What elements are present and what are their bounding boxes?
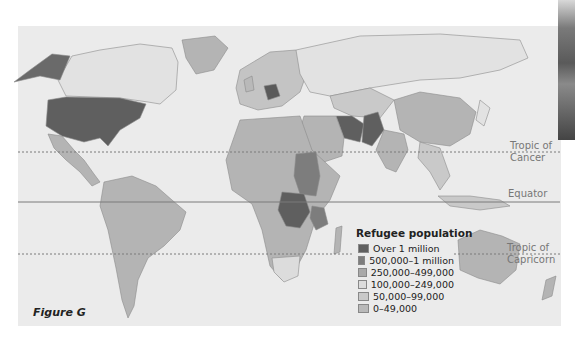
legend-label: Over 1 million (373, 243, 440, 254)
legend: Refugee population Over 1 million 500,00… (352, 226, 454, 320)
tropic-of-cancer-label-line2: Cancer (510, 152, 552, 164)
region-japan (476, 100, 490, 126)
region-madagascar (334, 226, 342, 254)
legend-swatch (358, 280, 367, 289)
tropic-of-capricorn-label: Tropic of Capricorn (507, 242, 555, 266)
world-map (0, 0, 575, 343)
region-russia (296, 34, 528, 96)
region-indonesia (438, 196, 510, 210)
region-new-zealand (542, 276, 556, 300)
legend-swatch (358, 292, 369, 301)
legend-label: 500,000–1 million (369, 255, 454, 266)
tropic-of-cancer-label-line1: Tropic of (510, 140, 552, 152)
legend-item: 500,000–1 million (358, 254, 454, 266)
region-india (376, 130, 408, 172)
region-china (394, 92, 476, 146)
legend-label: 50,000–99,000 (373, 291, 444, 302)
legend-swatch (358, 304, 369, 313)
legend-swatch (358, 244, 369, 253)
legend-title: Refugee population (356, 227, 454, 239)
legend-item: 50,000–99,000 (358, 290, 454, 302)
region-south-africa (272, 256, 300, 282)
figure-label: Figure G (33, 306, 86, 319)
region-greenland (182, 36, 228, 74)
legend-swatch (358, 256, 365, 265)
region-canada (58, 44, 178, 104)
tropic-of-capricorn-label-line2: Capricorn (507, 254, 555, 266)
tropic-of-cancer-label: Tropic of Cancer (510, 140, 552, 164)
region-southeast-asia (418, 142, 450, 190)
legend-label: 100,000–249,000 (371, 279, 454, 290)
equator-label: Equator (508, 188, 547, 200)
legend-item: 100,000–249,000 (358, 278, 454, 290)
legend-swatch (358, 268, 367, 277)
region-south-america (100, 176, 186, 318)
legend-label: 250,000–499,000 (371, 267, 454, 278)
tropic-of-capricorn-label-line1: Tropic of (507, 242, 555, 254)
legend-item: 250,000–499,000 (358, 266, 454, 278)
legend-label: 0–49,000 (373, 303, 417, 314)
region-mexico-central-america (48, 134, 100, 186)
legend-item: Over 1 million (358, 242, 454, 254)
legend-item: 0–49,000 (358, 302, 454, 314)
